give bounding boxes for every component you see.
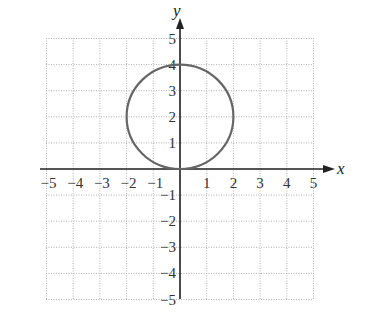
x-tick-label: −5 bbox=[41, 175, 57, 191]
x-axis-arrow-icon bbox=[323, 165, 335, 173]
x-tick-label: −3 bbox=[94, 175, 110, 191]
y-tick-label: 2 bbox=[169, 109, 177, 125]
x-tick-label: −4 bbox=[67, 175, 83, 191]
y-tick-label: −1 bbox=[160, 187, 176, 203]
x-tick-label: 3 bbox=[256, 175, 264, 191]
y-tick-label: −4 bbox=[160, 265, 176, 281]
y-tick-label: −3 bbox=[160, 239, 176, 255]
x-tick-label: −2 bbox=[121, 175, 137, 191]
axes: xy bbox=[40, 1, 345, 299]
x-tick-label: 5 bbox=[310, 175, 318, 191]
y-tick-label: −2 bbox=[160, 213, 176, 229]
y-tick-label: 1 bbox=[169, 135, 177, 151]
x-tick-label: 2 bbox=[230, 175, 238, 191]
x-tick-label: 4 bbox=[283, 175, 291, 191]
y-tick-label: 3 bbox=[169, 83, 177, 99]
x-axis-label: x bbox=[336, 159, 345, 178]
y-axis-label: y bbox=[171, 1, 181, 20]
coordinate-plane: xy −5−4−3−2−112345−5−4−3−2−112345 bbox=[0, 0, 370, 323]
y-tick-label: −5 bbox=[160, 292, 176, 308]
x-tick-label: 1 bbox=[203, 175, 211, 191]
y-tick-label: 5 bbox=[169, 31, 177, 47]
